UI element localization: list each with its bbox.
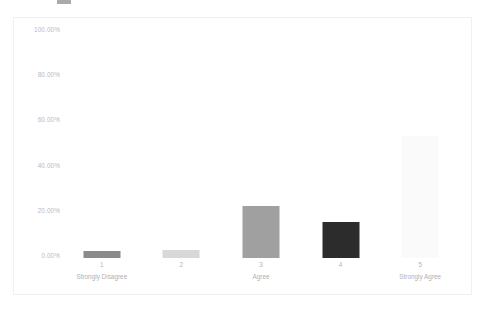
bar-slot <box>380 32 460 258</box>
x-axis-tick-label: 5 <box>380 260 460 269</box>
x-axis: 1 Strongly Disagree 2 3 Agree 4 5 Strong… <box>62 260 460 294</box>
bar-slot <box>301 32 381 258</box>
x-axis-category-2: 2 <box>142 260 222 272</box>
x-axis-tick-label: 2 <box>142 260 222 269</box>
y-axis-tick-label: 60.00% <box>14 116 60 124</box>
bar-category-5[interactable] <box>402 136 439 258</box>
x-axis-category-3: 3 Agree <box>221 260 301 281</box>
y-axis: 100.00% 80.00% 60.00% 40.00% 20.00% 0.00… <box>14 26 60 264</box>
cropped-title-artifact <box>57 0 71 4</box>
bar-category-3[interactable] <box>242 206 279 258</box>
bar-category-1[interactable] <box>83 251 120 258</box>
x-axis-category-4: 4 <box>301 260 381 272</box>
y-axis-tick-label: 40.00% <box>14 162 60 170</box>
x-axis-category-1: 1 Strongly Disagree <box>62 260 142 281</box>
bar-category-4[interactable] <box>322 222 359 258</box>
chart-container: 100.00% 80.00% 60.00% 40.00% 20.00% 0.00… <box>0 0 487 314</box>
y-axis-tick-label: 100.00% <box>14 26 60 34</box>
x-axis-category-5: 5 Strongly Agree <box>380 260 460 281</box>
bar-category-2[interactable] <box>163 250 200 258</box>
bars-layer <box>62 32 460 258</box>
bar-slot <box>221 32 301 258</box>
y-axis-tick-label: 0.00% <box>14 252 60 260</box>
x-axis-sublabel: Strongly Agree <box>380 272 460 281</box>
x-axis-tick-label: 1 <box>62 260 142 269</box>
x-axis-sublabel: Strongly Disagree <box>62 272 142 281</box>
x-axis-sublabel: Agree <box>221 272 301 281</box>
bar-slot <box>142 32 222 258</box>
x-axis-tick-label: 3 <box>221 260 301 269</box>
y-axis-tick-label: 80.00% <box>14 71 60 79</box>
bar-slot <box>62 32 142 258</box>
x-axis-tick-label: 4 <box>301 260 381 269</box>
y-axis-tick-label: 20.00% <box>14 207 60 215</box>
